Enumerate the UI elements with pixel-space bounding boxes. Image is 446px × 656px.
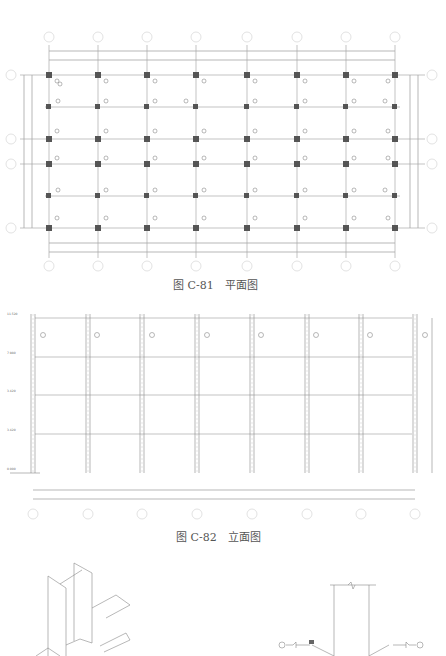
plan-column-nodes [46,72,398,231]
svg-text:7.980: 7.980 [7,351,16,355]
plan-caption: 图 C-81 平面图 [173,276,258,292]
isometric-joint-detail [36,563,130,656]
elevation-axis-bottom [28,509,420,519]
svg-text:3.420: 3.420 [7,389,16,393]
elevation-columns [31,314,417,473]
plan-axis-top [44,32,400,42]
level-label: 11.520 [7,312,18,316]
plan-axis-bottom [44,261,400,271]
svg-text:0.000: 0.000 [7,467,16,471]
drawing-canvas: 11.520 7.980 3.420 3.420 0.000 [0,0,446,656]
elevation-view: 11.520 7.980 3.420 3.420 0.000 [7,312,432,519]
svg-text:3.420: 3.420 [7,428,16,432]
plan-view [6,32,437,271]
weld-detail [279,582,423,656]
elevation-caption: 图 C-82 立面图 [176,528,261,544]
